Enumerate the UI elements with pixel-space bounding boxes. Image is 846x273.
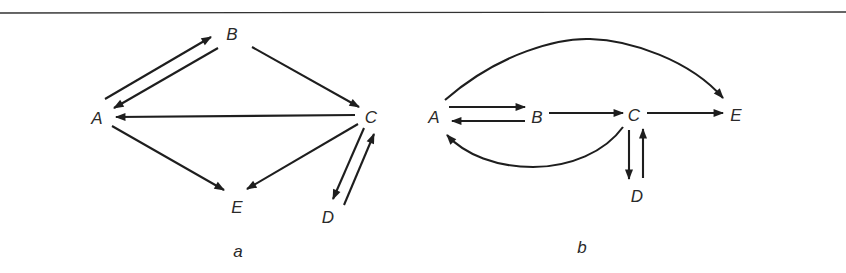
diagram-canvas: A B C D E a A B C D E b	[0, 0, 846, 273]
figure: A B C D E a A B C D E b	[0, 0, 846, 273]
node-a-B: B	[226, 25, 237, 44]
node-b-A: A	[427, 108, 439, 127]
panel-label-a: a	[233, 242, 242, 261]
edge-b-A-to-E-arc	[445, 39, 723, 100]
panel-label-b: b	[577, 238, 586, 257]
node-a-A: A	[90, 109, 102, 128]
node-a-C: C	[365, 108, 378, 127]
panel-b: A B C D E b	[427, 39, 742, 257]
edge-a-B-to-A	[114, 48, 218, 108]
edge-a-A-to-B	[105, 37, 211, 99]
node-a-E: E	[231, 198, 243, 217]
edge-a-A-to-E	[112, 126, 224, 190]
edge-a-D-to-C	[344, 134, 374, 205]
node-a-D: D	[322, 208, 334, 227]
node-b-C: C	[628, 106, 641, 125]
node-b-D: D	[631, 187, 643, 206]
edge-a-B-to-C	[252, 47, 359, 107]
top-rule	[0, 12, 846, 13]
panel-a: A B C D E a	[90, 25, 378, 261]
edge-a-C-to-D	[333, 128, 364, 199]
node-b-E: E	[730, 106, 742, 125]
node-b-B: B	[531, 108, 542, 127]
edge-b-C-to-A-arc	[447, 127, 623, 167]
edge-a-C-to-A	[116, 115, 355, 117]
